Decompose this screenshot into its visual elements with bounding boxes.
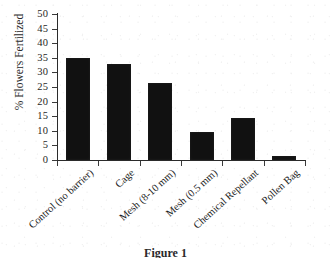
x-tick-mark (181, 161, 182, 166)
y-tick-label: 30 (8, 67, 48, 77)
bar (272, 156, 296, 160)
y-tick-label: 5 (8, 140, 48, 150)
y-tick-label: 35 (8, 53, 48, 63)
x-tick-mark (98, 161, 99, 166)
y-tick-label: 45 (8, 24, 48, 34)
bar (231, 118, 255, 160)
y-tick-label: 0 (8, 155, 48, 165)
bar (148, 83, 172, 160)
x-tick-mark (305, 161, 306, 166)
figure-container: % Flowers Fertilized 0510152025303540455… (0, 0, 331, 258)
bar (107, 64, 131, 160)
y-tick-label: 25 (8, 82, 48, 92)
bar (190, 132, 214, 160)
y-tick-label: 15 (8, 111, 48, 121)
y-tick-label: 40 (8, 38, 48, 48)
bar (66, 58, 90, 160)
y-tick-label: 50 (8, 9, 48, 19)
x-tick-mark (140, 161, 141, 166)
plot-area (57, 14, 305, 160)
y-tick-label: 10 (8, 126, 48, 136)
x-tick-mark (57, 161, 58, 166)
figure-caption: Figure 1 (0, 246, 331, 258)
x-tick-mark (222, 161, 223, 166)
x-tick-mark (264, 161, 265, 166)
y-tick-label: 20 (8, 97, 48, 107)
